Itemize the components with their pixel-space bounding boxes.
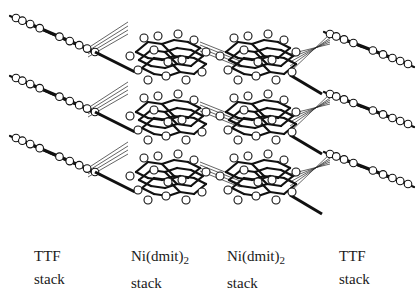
- crystal-structure-diagram: [0, 0, 420, 240]
- label-nidmit-left: Ni(dmit)2 stack: [131, 245, 189, 295]
- label-ttf-left-name: TTF: [34, 248, 61, 264]
- label-nidmit-left-name: Ni(dmit): [131, 248, 184, 264]
- label-nidmit-left-sub: 2: [184, 254, 190, 266]
- label-nidmit-right-stack: stack: [227, 275, 258, 291]
- label-nidmit-right-sub: 2: [280, 254, 286, 266]
- structure-row-3: [10, 134, 414, 214]
- structure-row-1: [10, 14, 414, 94]
- label-nidmit-right-name: Ni(dmit): [227, 248, 280, 264]
- label-ttf-right: TTF stack: [339, 245, 370, 291]
- label-ttf-right-stack: stack: [339, 271, 370, 287]
- structure-row-2: [10, 74, 414, 154]
- label-ttf-right-name: TTF: [339, 248, 366, 264]
- label-ttf-left-stack: stack: [34, 271, 65, 287]
- label-nidmit-left-stack: stack: [131, 275, 162, 291]
- label-nidmit-right: Ni(dmit)2 stack: [227, 245, 285, 295]
- label-ttf-left: TTF stack: [34, 245, 65, 291]
